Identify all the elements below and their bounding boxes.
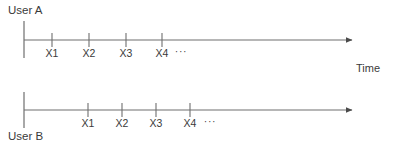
timeline-b-label-x4: X4 xyxy=(184,118,197,129)
timeline-b-label-x2: X2 xyxy=(116,118,129,129)
timeline-b-label-x3: X3 xyxy=(150,118,163,129)
user-b-label: User B xyxy=(8,131,43,143)
user-a-label: User A xyxy=(8,5,43,17)
time-axis-label: Time xyxy=(356,63,380,74)
timeline-a-ellipsis: ··· xyxy=(175,46,187,57)
timeline-a-label-x3: X3 xyxy=(120,48,133,59)
timeline-a-label-x2: X2 xyxy=(83,48,96,59)
timeline-b-label-x1: X1 xyxy=(82,118,95,129)
timeline-b-ellipsis: ··· xyxy=(204,116,216,127)
timeline-a-label-x1: X1 xyxy=(46,48,59,59)
timeline-a-group xyxy=(24,21,352,58)
timeline-a-label-x4: X4 xyxy=(156,48,169,59)
timeline-diagram: User A X1 X2 X3 X4 ··· Time X1 X2 X3 X4 … xyxy=(0,0,393,147)
